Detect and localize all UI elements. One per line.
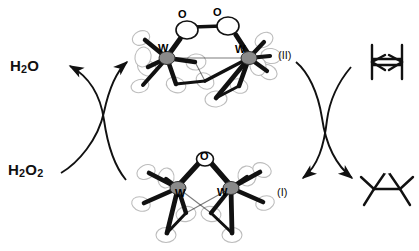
atom-label-tungsten-bottom-right: W: [217, 186, 227, 198]
arrow-h2o2-to-complex: [61, 62, 127, 173]
arrow-alkene-to-complex: [303, 67, 351, 178]
alkene-structure: [372, 45, 402, 79]
arrow-complex-to-h2o: [70, 66, 126, 180]
left-arrow-group: [61, 62, 127, 180]
atom-label-oxygen-bottom: O: [200, 150, 209, 162]
epoxide-oxygen-circle: [381, 161, 392, 172]
ellipsoid-outlines-top: [130, 28, 282, 108]
arrow-complex-to-epoxide: [296, 62, 352, 178]
structure-complex-I: [130, 152, 276, 243]
right-arrow-group: [296, 62, 352, 178]
peroxo-bridge-top: [176, 17, 239, 39]
structure-complex-II: [130, 17, 282, 108]
atom-label-oxygen-top-right: O: [213, 6, 222, 18]
atom-label-oxygen-top-left: O: [178, 8, 187, 20]
bridge-oxygen-left: [176, 21, 198, 39]
atom-label-tungsten-top-left: W: [158, 42, 168, 54]
atom-label-tungsten-bottom-left: W: [175, 187, 185, 199]
bridge-oxygen-right: [217, 17, 239, 35]
epoxide-structure: [361, 161, 413, 205]
atom-label-tungsten-top-right: W: [235, 43, 245, 55]
reagent-label-water: H2O: [10, 57, 39, 75]
complex-label-two: (II): [278, 49, 291, 61]
catalytic-cycle-figure: [0, 0, 419, 251]
complex-label-one: (I): [277, 186, 287, 198]
reagent-label-hydrogen-peroxide: H2O2: [8, 161, 43, 179]
